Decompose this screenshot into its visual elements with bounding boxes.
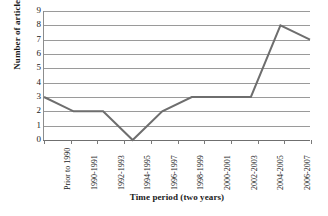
y-axis-tick-label: 3 bbox=[27, 92, 41, 101]
y-axis-tick-label: 7 bbox=[27, 35, 41, 44]
x-axis-category-label: 1998-1999 bbox=[195, 144, 206, 190]
x-axis-category-label: 1994-1995 bbox=[142, 144, 153, 190]
x-axis-category-label: 1990-1991 bbox=[89, 144, 100, 190]
y-axis-tick-label: 2 bbox=[27, 106, 41, 115]
x-axis-title: Time period (two years) bbox=[44, 192, 310, 202]
x-axis-category-label: 1996-1997 bbox=[169, 144, 180, 190]
x-axis-category-label: 2000-2001 bbox=[222, 144, 233, 190]
x-axis-category-labels: Prior to 19901990-19911992-19931994-1995… bbox=[44, 144, 310, 190]
y-axis-tick-label: 0 bbox=[27, 135, 41, 144]
x-axis-category-label: 1992-1993 bbox=[116, 144, 127, 190]
plot-area bbox=[44, 11, 310, 140]
line-chart: Number of articles 0123456789 Prior to 1… bbox=[0, 0, 328, 216]
series-line bbox=[44, 11, 310, 140]
y-axis-tick-labels: 0123456789 bbox=[27, 0, 41, 216]
x-axis-category-label: 2002-2003 bbox=[249, 144, 260, 190]
y-axis-tick-label: 8 bbox=[27, 20, 41, 29]
y-axis-tick-label: 5 bbox=[27, 63, 41, 72]
x-axis-category-label: 2006-2007 bbox=[302, 144, 313, 190]
y-axis-tick-label: 4 bbox=[27, 78, 41, 87]
y-axis-tick-label: 9 bbox=[27, 6, 41, 15]
y-axis-tick-label: 1 bbox=[27, 121, 41, 130]
y-axis-title: Number of articles bbox=[10, 0, 24, 88]
x-axis-category-label: Prior to 1990 bbox=[62, 144, 73, 190]
y-axis-tick-label: 6 bbox=[27, 49, 41, 58]
x-axis-category-label: 2004-2005 bbox=[275, 144, 286, 190]
